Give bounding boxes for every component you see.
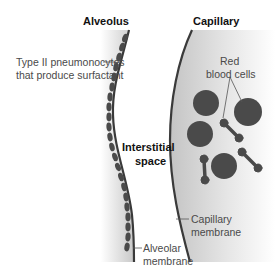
rbc-2 [234,98,262,126]
label-rbc-line2: blood cells [206,68,256,80]
label-rbc-line1: Red [220,55,239,67]
alveolar-capillary-diagram: Alveolus Capillary Type II pneumonocytes… [0,0,275,275]
label-interstitial-line1: Interstitial [122,141,175,153]
label-interstitial-line2: space [135,155,166,167]
label-type2-line1: Type II pneumonocytes [16,56,125,68]
rbc-4 [211,153,237,179]
heading-alveolus: Alveolus [83,15,129,27]
label-type2-line2: that produce surfactant [16,69,123,81]
rbc-3 [187,121,213,147]
rbc-1 [193,90,219,116]
label-capmem-line2: membrane [191,226,241,238]
label-capmem-line1: Capillary [191,213,232,225]
label-alvmem-line1: Alveolar [143,242,181,254]
heading-capillary: Capillary [193,15,239,27]
label-alvmem-line2: membrane [143,255,193,267]
